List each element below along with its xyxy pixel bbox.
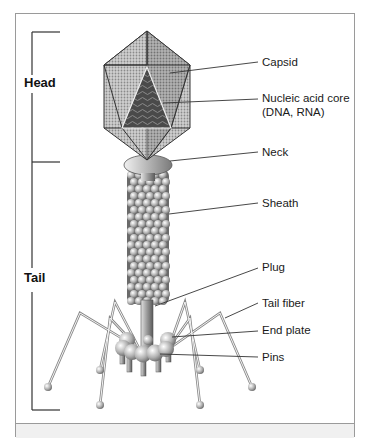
capsid-label: Capsid — [262, 55, 298, 69]
pins-label: Pins — [262, 350, 284, 364]
fiber-tips — [44, 366, 256, 409]
neck-label: Neck — [262, 145, 288, 159]
tail-label: Tail — [24, 270, 45, 285]
head-bracket — [32, 32, 60, 162]
nucleic-acid-core-sublabel: (DNA, RNA) — [262, 105, 325, 119]
head-label: Head — [24, 75, 56, 90]
sheath-label: Sheath — [262, 196, 298, 210]
capsid — [104, 31, 190, 160]
sheath — [127, 170, 170, 305]
end-plate-label: End plate — [262, 323, 311, 337]
plug-label: Plug — [262, 260, 285, 274]
nucleic-acid-core-label: Nucleic acid core — [262, 91, 350, 105]
tail-fiber-label: Tail fiber — [262, 296, 305, 310]
tail-bracket — [32, 162, 60, 410]
